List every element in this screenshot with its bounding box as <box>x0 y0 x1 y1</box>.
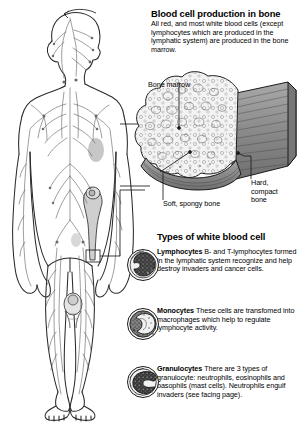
cell-entry-text: Granulocytes There are 3 types of granul… <box>157 364 298 399</box>
cell-entry-text: Monocytes These cells are transfomed int… <box>157 306 298 333</box>
label-bone-marrow: Bone marrow <box>148 81 190 89</box>
illustration-page: Blood cell production in bone All red, a… <box>0 0 299 440</box>
label-soft-spongy-bone: Soft, spongy bone <box>163 200 220 208</box>
bone-shaft <box>232 82 296 180</box>
femur-bone-highlight <box>84 187 102 260</box>
page-title: Blood cell production in bone <box>151 8 297 19</box>
monocyte-cell-illustration <box>126 306 162 342</box>
cell-entry-lymphocytes: Lymphocytes B- and T-lymphocytes formed … <box>126 247 298 274</box>
granulocyte-cell-illustration <box>126 364 162 400</box>
spleen-shading <box>88 138 104 162</box>
cell-entry-granulocytes: Granulocytes There are 3 types of granul… <box>126 364 298 399</box>
knee-joint-detail <box>64 293 82 328</box>
section-title-white-blood-cells: Types of white blood cell <box>157 231 297 242</box>
intro-text: All red, and most white blood cells (exc… <box>151 20 298 54</box>
label-hard-compact-bone: Hard, compact bone <box>251 179 295 205</box>
lymphocyte-cell-illustration <box>126 247 162 283</box>
cell-entry-monocytes: Monocytes These cells are transfomed int… <box>126 306 298 333</box>
cell-entry-text: Lymphocytes B- and T-lymphocytes formed … <box>157 247 298 274</box>
intro-paragraph: All red, and most white blood cells (exc… <box>151 20 298 54</box>
